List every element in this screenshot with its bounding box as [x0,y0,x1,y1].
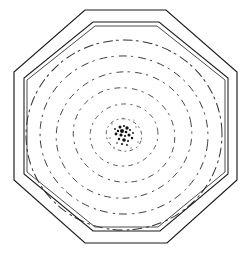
center-speck [117,130,119,132]
center-speck [114,128,116,130]
center-speck [124,135,126,137]
center-faint-speck [137,141,138,142]
center-faint-speck [135,126,136,127]
center-speck [125,126,128,129]
center-speck [122,138,126,142]
center-speck [119,126,122,129]
center-speck [121,143,123,145]
center-faint-speck [111,123,112,124]
center-faint-speck [109,137,111,139]
center-speck [118,138,120,140]
center-speck [126,144,128,146]
center-speck [125,131,128,134]
figure-background [0,0,251,259]
center-speck [116,142,118,144]
center-speck [123,125,125,127]
figure-root [0,0,251,259]
center-speck [119,133,122,136]
center-faint-speck [113,147,114,148]
center-speck [115,133,118,136]
center-faint-speck [130,147,131,148]
center-speck [132,132,134,134]
center-speck [128,134,131,137]
center-speck [129,129,131,131]
center-faint-speck [122,117,123,118]
octagon-contour-figure [0,0,251,259]
center-speck [120,129,124,133]
center-speck [127,140,129,142]
center-faint-speck [133,119,134,120]
center-speck [131,137,133,139]
